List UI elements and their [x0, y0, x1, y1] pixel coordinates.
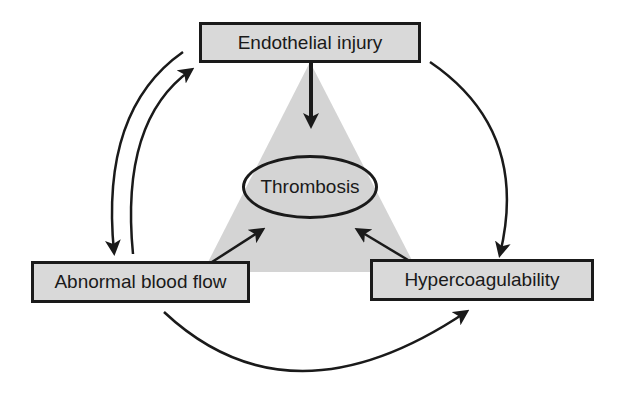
center-label: Thrombosis: [260, 176, 359, 198]
node-label: Hypercoagulability: [404, 269, 559, 291]
node-label: Abnormal blood flow: [54, 271, 226, 293]
node-hypercoagulability: Hypercoagulability: [370, 259, 594, 301]
arrow-flow-to-hyper: [164, 312, 466, 371]
node-thrombosis: Thrombosis: [242, 155, 378, 219]
arrow-endothelial-to-flow: [112, 52, 183, 252]
node-label: Endothelial injury: [238, 32, 383, 54]
arrow-endothelial-to-hyper: [430, 62, 507, 254]
node-endothelial-injury: Endothelial injury: [199, 22, 421, 63]
node-abnormal-blood-flow: Abnormal blood flow: [31, 261, 250, 303]
